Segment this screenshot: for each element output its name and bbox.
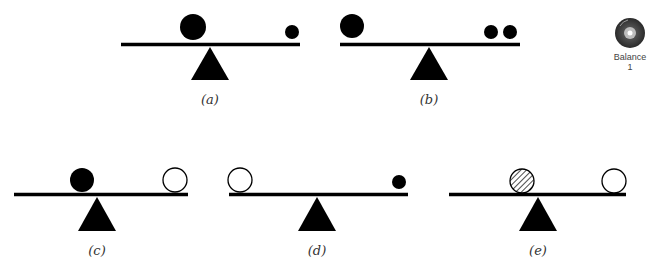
panel-label: (b) <box>420 92 438 107</box>
balance-panel-e: (e) <box>449 169 626 258</box>
balance-diagram: (a)(b)(c)(d)(e) Balance 1 <box>0 0 651 266</box>
balance-panel-c: (c) <box>14 168 188 258</box>
balance-panel-a: (a) <box>121 14 300 107</box>
solid-weight <box>70 168 94 192</box>
fulcrum-triangle <box>191 47 229 80</box>
cd-disc-icon[interactable] <box>615 18 645 48</box>
solid-weight <box>484 25 498 39</box>
fulcrum-triangle <box>410 47 448 80</box>
panel-label: (e) <box>529 243 547 258</box>
solid-weight <box>340 14 364 38</box>
solid-weight <box>503 25 517 39</box>
fulcrum-triangle <box>298 197 336 231</box>
panel-label: (a) <box>201 92 219 107</box>
panel-label: (c) <box>88 243 105 258</box>
panel-label: (d) <box>308 243 326 258</box>
disc-hole <box>628 31 633 36</box>
hatched-weight <box>510 169 534 193</box>
open-weight <box>602 169 626 193</box>
open-weight <box>163 168 187 192</box>
media-title: Balance <box>614 52 647 62</box>
solid-weight <box>392 175 406 189</box>
balance-panel-b: (b) <box>340 14 520 107</box>
solid-weight <box>285 25 299 39</box>
open-weight <box>228 168 252 192</box>
media-number: 1 <box>627 62 632 72</box>
solid-weight <box>180 14 206 40</box>
fulcrum-triangle <box>78 197 116 231</box>
fulcrum-triangle <box>519 197 557 231</box>
balance-panel-d: (d) <box>228 168 408 258</box>
